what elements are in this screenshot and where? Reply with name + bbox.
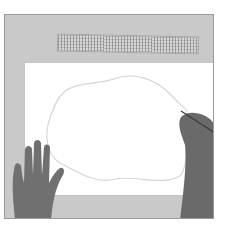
photo-frame [4,14,214,219]
traced-outline [47,76,189,180]
scene-drawing [5,15,214,219]
left-hand [13,140,64,219]
